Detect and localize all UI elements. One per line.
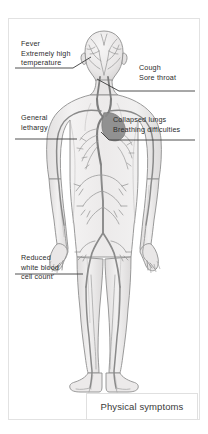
caption-box: Physical symptoms — [86, 393, 198, 420]
annotation-general-lethargy: General lethargy — [21, 113, 48, 132]
annotation-lethargy-line-1: General — [21, 113, 48, 123]
annotation-cough-line-1: Cough — [139, 63, 176, 73]
annotation-fever: Fever Extremely high temperature — [21, 39, 71, 68]
annotation-wbc-line-1: Reduced — [21, 253, 59, 263]
annotation-fever-line-2: Extremely high — [21, 49, 71, 59]
annotation-lungs-line-2: Breathing difficulties — [113, 125, 180, 135]
annotation-fever-line-3: temperature — [21, 58, 71, 68]
annotation-lungs-line-1: Collapsed lungs — [113, 115, 180, 125]
annotation-wbc-line-2: white blood — [21, 263, 59, 273]
annotation-cough-line-2: Sore throat — [139, 73, 176, 83]
annotation-lethargy-line-2: lethargy — [21, 123, 48, 133]
annotation-wbc-line-3: cell count' — [21, 272, 59, 282]
annotation-reduced-white-blood-cell-count: Reduced white blood cell count' — [21, 253, 59, 282]
annotation-fever-line-1: Fever — [21, 39, 71, 49]
diagram-frame: Fever Extremely high temperature Cough S… — [8, 18, 200, 420]
annotation-collapsed-lungs: Collapsed lungs Breathing difficulties — [113, 115, 180, 134]
caption-title: Physical symptoms — [101, 401, 184, 412]
annotation-cough: Cough Sore throat — [139, 63, 176, 82]
